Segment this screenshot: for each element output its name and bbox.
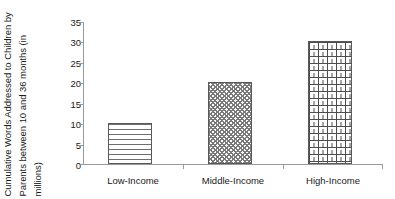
y-axis-line <box>83 22 84 165</box>
x-axis-tick <box>283 165 284 169</box>
y-axis-title-line-3: millions) <box>33 162 43 196</box>
y-axis-tick <box>79 124 83 125</box>
y-axis-tick-labels: 35 30 25 20 15 10 5 0 <box>56 0 81 199</box>
y-axis-tick <box>79 42 83 43</box>
y-tick-label: 10 <box>57 120 81 130</box>
x-axis-tick <box>183 165 184 169</box>
y-tick-label: 25 <box>57 59 81 69</box>
bar-chart: Cumulative Words Addressed to Children b… <box>0 0 395 199</box>
y-axis-tick <box>79 145 83 146</box>
bar-middle-income <box>208 82 252 164</box>
y-axis-tick <box>79 83 83 84</box>
bar-high-income <box>308 41 352 164</box>
y-axis-tick <box>79 63 83 64</box>
y-axis-title-line-1: Cumulative Words Addressed to Children b… <box>3 12 13 196</box>
bar-low-income <box>108 123 152 164</box>
brick-pattern-overlay <box>309 42 351 163</box>
y-axis-tick <box>79 104 83 105</box>
x-category-label: Low-Income <box>83 176 183 186</box>
x-axis-line <box>83 164 383 165</box>
y-tick-label: 30 <box>57 38 81 48</box>
y-tick-label: 20 <box>57 79 81 89</box>
y-axis-tick <box>79 164 83 165</box>
y-tick-label: 5 <box>57 141 81 151</box>
y-axis-tick <box>79 22 83 23</box>
y-axis-title: Cumulative Words Addressed to Children b… <box>0 0 56 199</box>
y-axis-title-line-2: Parents between 10 and 36 months (in <box>18 35 28 196</box>
y-tick-label: 0 <box>57 161 81 171</box>
x-axis-category-labels: Low-Income Middle-Income High-Income <box>83 176 383 192</box>
y-tick-label: 35 <box>57 18 81 28</box>
y-tick-label: 15 <box>57 100 81 110</box>
plot-area <box>83 22 383 165</box>
x-category-label: High-Income <box>283 176 383 186</box>
x-category-label: Middle-Income <box>183 176 283 186</box>
x-axis-tick <box>382 165 383 169</box>
